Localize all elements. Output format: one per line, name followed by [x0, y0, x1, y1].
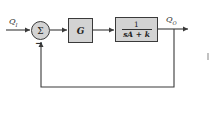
controller-block-g: G [68, 18, 93, 43]
output-label: QO [166, 16, 177, 26]
controller-label: G [77, 26, 85, 36]
input-label: QI [9, 18, 18, 28]
transfer-function: 1 sA + k [122, 21, 152, 39]
tf-denominator: sA + k [123, 30, 150, 39]
sigma-symbol: Σ [37, 26, 43, 36]
feedback-minus-sign: − [35, 39, 43, 48]
block-diagram: Σ − QI G 1 sA + k QO [0, 0, 211, 128]
signal-lines [0, 0, 211, 128]
plant-block: 1 sA + k [115, 17, 158, 42]
tf-numerator: 1 [134, 21, 139, 30]
edge-artifact [207, 53, 209, 60]
